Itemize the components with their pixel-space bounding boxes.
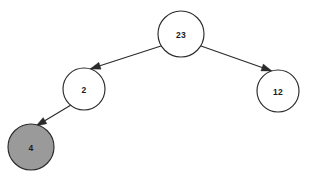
tree-node-left[interactable]: 2: [63, 68, 105, 110]
node-label-root: 23: [176, 30, 186, 40]
node-label-right: 12: [273, 87, 283, 97]
edge-arrowhead-root-to-left: [90, 62, 101, 69]
node-group: 23 2 12 4: [8, 11, 299, 170]
node-label-leaf-highlighted: 4: [29, 143, 34, 153]
edge-left-to-leaf: [36, 105, 71, 126]
edge-line-root-to-left: [91, 46, 161, 69]
tree-node-root[interactable]: 23: [158, 11, 204, 57]
binary-tree-diagram: 23 2 12 4: [0, 0, 312, 177]
tree-canvas: 23 2 12 4: [0, 0, 312, 177]
edge-root-to-right: [201, 46, 272, 71]
edge-line-root-to-right: [201, 46, 271, 71]
node-label-left: 2: [82, 85, 87, 95]
tree-node-right[interactable]: 12: [257, 70, 299, 112]
edge-root-to-left: [90, 46, 161, 69]
edge-arrowhead-root-to-right: [261, 64, 272, 71]
tree-node-leaf-highlighted[interactable]: 4: [8, 124, 54, 170]
